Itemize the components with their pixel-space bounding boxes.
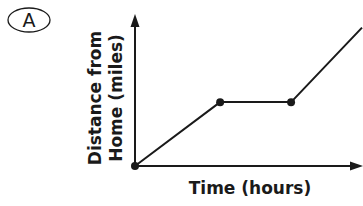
y-axis-label: Distance from Home (miles) — [85, 31, 126, 165]
data-series — [131, 28, 362, 170]
x-axis-arrow-icon — [350, 162, 363, 171]
y-axis-label-line-2: Home (miles) — [106, 34, 126, 162]
x-axis-label: Time (hours) — [189, 178, 312, 198]
data-point-marker — [131, 162, 139, 170]
distance-line — [135, 28, 362, 166]
data-point-marker — [287, 98, 295, 106]
data-point-marker — [216, 98, 224, 106]
option-marker: A — [8, 8, 50, 32]
y-axis-label-line-1: Distance from — [85, 31, 105, 165]
axes — [131, 14, 363, 171]
distance-time-graph: A Distance from Home (miles) Time (hours… — [0, 0, 363, 206]
y-axis-arrow-icon — [131, 14, 140, 27]
option-letter: A — [23, 9, 36, 31]
